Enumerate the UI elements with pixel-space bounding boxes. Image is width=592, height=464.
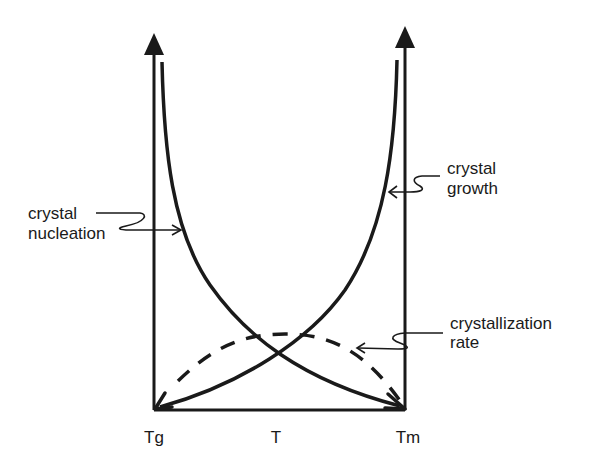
growth-label-line2: growth	[447, 179, 498, 198]
nucleation-label-line2: nucleation	[28, 224, 106, 243]
left-axis	[144, 33, 164, 410]
tick-label-tm: Tm	[396, 428, 421, 447]
growth-curve	[160, 60, 397, 407]
left-axis-arrowhead	[144, 33, 164, 55]
tick-label-t: T	[271, 428, 281, 447]
crystallization-label-line2: rate	[450, 333, 479, 352]
growth-label-line1: crystal	[447, 159, 496, 178]
crystallization-diagram: crystal nucleation crystal growth crysta…	[0, 0, 592, 464]
tick-label-tg: Tg	[144, 428, 164, 447]
nucleation-label-line1: crystal	[28, 204, 77, 223]
nucleation-curve	[162, 62, 400, 406]
growth-label: crystal growth	[447, 159, 498, 198]
growth-leader	[390, 176, 440, 192]
nucleation-leader	[96, 213, 180, 230]
nucleation-label: crystal nucleation	[28, 204, 106, 243]
growth-curve-arrowhead	[155, 393, 172, 409]
right-axis	[395, 26, 415, 410]
right-axis-arrowhead	[395, 26, 415, 48]
crystallization-rate-label: crystallization rate	[450, 314, 552, 352]
crystallization-leader	[358, 333, 443, 349]
crystallization-label-line1: crystallization	[450, 314, 552, 333]
